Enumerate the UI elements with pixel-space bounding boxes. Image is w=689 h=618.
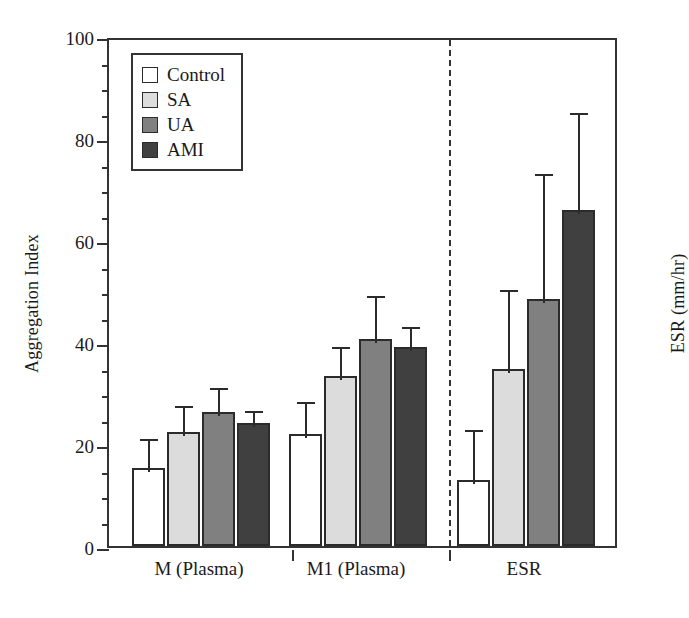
error-bar-cap [465,430,483,432]
legend-swatch-icon [142,67,158,83]
y-axis-minor-tick [102,524,109,526]
legend-item-ami: AMI [142,137,225,162]
y-axis-minor-tick [102,294,109,296]
error-bar-cap [297,402,315,404]
y-axis-minor-tick [102,498,109,500]
legend-label: SA [167,90,191,109]
bar-ami-2 [394,347,427,546]
error-bar-stem [218,388,220,416]
error-bar-stem [183,406,185,437]
y-axis-tick-label: 80 [24,130,94,152]
error-bar-stem [305,402,307,438]
y-axis-minor-tick [102,218,109,220]
legend-box: ControlSAUAAMI [131,53,243,171]
error-bar-cap [535,174,553,176]
y-axis-tick-label: 20 [24,436,94,458]
error-bar-cap [140,439,158,441]
bar-sa-3 [492,369,525,546]
error-bar-stem [148,439,150,472]
y-axis-tick-label: 100 [24,28,94,50]
error-bar-stem [543,174,545,303]
error-bar-cap [245,411,263,413]
y-axis-minor-tick [102,473,109,475]
y-axis-minor-tick [102,371,109,373]
error-bar-stem [508,290,510,373]
bar-ami-3 [562,210,595,546]
bar-ua-3 [527,299,560,546]
y-axis-minor-tick [102,90,109,92]
y-axis-minor-tick [102,116,109,118]
error-bar-cap [570,113,588,115]
y-axis-minor-tick [102,396,109,398]
error-bar-stem [578,113,580,214]
bar-sa-2 [324,376,357,546]
y-axis-major-tick [97,549,109,551]
y-axis-title-right: ESR (mm/hr) [668,204,689,404]
y-axis-major-tick [97,447,109,449]
y-axis-major-tick [97,39,109,41]
legend-label: AMI [167,140,204,159]
error-bar-stem [340,347,342,380]
group-divider-dashed-line [449,40,451,546]
y-axis-tick-label: 0 [24,538,94,560]
legend-label: Control [167,65,225,84]
bar-ua-1 [202,412,235,546]
y-axis-minor-tick [102,65,109,67]
y-axis-major-tick [97,345,109,347]
error-bar-stem [410,327,412,351]
plot-area: 020406080100 ControlSAUAAMI [107,38,617,548]
error-bar-cap [402,327,420,329]
bar-ua-2 [359,339,392,546]
error-bar-cap [210,388,228,390]
error-bar-stem [375,296,377,343]
y-axis-minor-tick [102,269,109,271]
bar-sa-1 [167,432,200,546]
bar-ami-1 [237,423,270,546]
y-axis-major-tick [97,243,109,245]
error-bar-cap [367,296,385,298]
y-axis-minor-tick [102,320,109,322]
y-axis-tick-label: 60 [24,232,94,254]
error-bar-stem [473,430,475,484]
error-bar-cap [332,347,350,349]
legend-item-control: Control [142,62,225,87]
y-axis-tick-label: 40 [24,334,94,356]
error-bar-cap [500,290,518,292]
legend-label: UA [167,115,194,134]
error-bar-stem [253,411,255,426]
bar-control-1 [132,468,165,546]
legend-item-ua: UA [142,112,225,137]
legend-swatch-icon [142,117,158,133]
legend-swatch-icon [142,142,158,158]
error-bar-cap [175,406,193,408]
legend-item-sa: SA [142,87,225,112]
x-axis-label-3: ESR [424,558,624,580]
y-axis-major-tick [97,141,109,143]
y-axis-minor-tick [102,192,109,194]
bar-control-3 [457,480,490,546]
bar-control-2 [289,434,322,546]
y-axis-minor-tick [102,167,109,169]
legend-swatch-icon [142,92,158,108]
y-axis-minor-tick [102,422,109,424]
